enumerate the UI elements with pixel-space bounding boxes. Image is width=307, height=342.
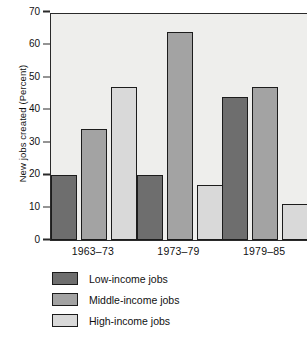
bar-low-income-jobs-1973–79	[137, 175, 163, 240]
legend-item-low-income-jobs: Low-income jobs	[52, 272, 179, 285]
bar-chart-figure: New jobs created (Percent) 0102030405060…	[0, 0, 307, 342]
x-axis-label-1973–79: 1973–79	[136, 245, 222, 257]
y-tick-mark	[43, 11, 50, 12]
legend-label: High-income jobs	[89, 315, 170, 327]
bar-group-1979–85	[222, 87, 307, 240]
legend-label: Low-income jobs	[89, 273, 168, 285]
bar-middle-income-jobs-1979–85	[252, 87, 278, 240]
y-tick-label: 20	[29, 168, 40, 179]
y-tick-mark	[43, 76, 50, 77]
chart-legend: Low-income jobsMiddle-income jobsHigh-in…	[52, 272, 179, 327]
y-tick-label: 70	[29, 5, 40, 16]
y-tick-mark	[43, 141, 50, 142]
plot-area: 010203040506070	[50, 13, 307, 241]
x-axis-label-1979–85: 1979–85	[221, 245, 307, 257]
bar-group-1973–79	[137, 32, 223, 240]
bar-high-income-jobs-1963–73	[111, 87, 137, 240]
bar-middle-income-jobs-1963–73	[81, 129, 107, 240]
y-tick-mark	[43, 109, 50, 110]
y-tick-label: 60	[29, 38, 40, 49]
bar-group-1963–73	[51, 87, 137, 240]
legend-swatch-2	[52, 314, 78, 327]
y-tick-mark	[43, 239, 50, 240]
bar-low-income-jobs-1963–73	[51, 175, 77, 240]
bar-high-income-jobs-1979–85	[282, 204, 307, 240]
bar-middle-income-jobs-1973–79	[167, 32, 193, 240]
y-tick-mark	[43, 174, 50, 175]
legend-item-high-income-jobs: High-income jobs	[52, 314, 179, 327]
legend-swatch-1	[52, 293, 78, 306]
y-tick-label: 40	[29, 103, 40, 114]
y-tick-mark	[43, 43, 50, 44]
legend-swatch-0	[52, 272, 78, 285]
y-axis-title: New jobs created (Percent)	[17, 44, 28, 204]
y-tick-label: 0	[34, 233, 40, 244]
bar-high-income-jobs-1973–79	[197, 185, 223, 240]
legend-item-middle-income-jobs: Middle-income jobs	[52, 293, 179, 306]
y-tick-mark	[43, 206, 50, 207]
legend-label: Middle-income jobs	[89, 294, 179, 306]
y-tick-label: 50	[29, 70, 40, 81]
bar-low-income-jobs-1979–85	[222, 97, 248, 240]
y-tick-label: 10	[29, 200, 40, 211]
x-axis-label-1963–73: 1963–73	[50, 245, 136, 257]
y-tick-label: 30	[29, 135, 40, 146]
